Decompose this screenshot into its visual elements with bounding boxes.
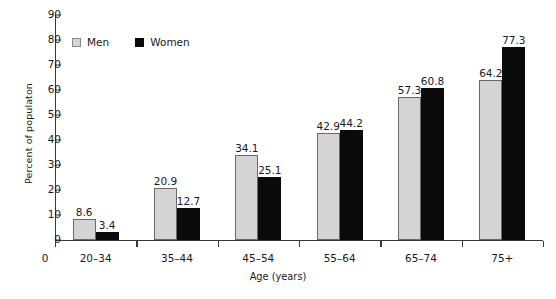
bar-women-3 (340, 130, 363, 241)
y-tick-label: 50 (37, 108, 61, 120)
x-tick-mark (462, 241, 463, 247)
bar-value-label-women-0: 3.4 (90, 219, 124, 231)
origin-label: 0 (35, 252, 55, 264)
bar-women-1 (177, 208, 200, 240)
x-tick-mark (218, 241, 219, 247)
bar-women-4 (421, 88, 444, 240)
x-tick-mark (299, 241, 300, 247)
bar-value-label-women-1: 12.7 (172, 195, 206, 207)
x-tick-label-2: 45–54 (218, 252, 298, 264)
bar-value-label-men-0: 8.6 (67, 206, 101, 218)
x-tick-label-5: 75+ (462, 252, 542, 264)
y-tick-label: 10 (37, 208, 61, 220)
bar-women-5 (502, 47, 525, 240)
y-tick-label: 80 (37, 33, 61, 45)
legend-item-men: Men (72, 36, 109, 48)
x-tick-mark (543, 241, 544, 247)
x-tick-mark (380, 241, 381, 247)
x-tick-label-3: 55–64 (300, 252, 380, 264)
x-tick-label-1: 35–44 (137, 252, 217, 264)
x-tick-mark (55, 241, 56, 247)
x-tick-mark (136, 241, 137, 247)
bar-men-5 (479, 80, 502, 241)
x-axis-title: Age (years) (0, 271, 556, 282)
legend-swatch-men-icon (72, 38, 81, 47)
chart-legend: Men Women (72, 36, 190, 48)
bar-value-label-men-1: 20.9 (149, 175, 183, 187)
y-tick-label: 30 (37, 158, 61, 170)
bar-chart-figure: Percent of populaton 0102030405060708090… (0, 0, 556, 299)
bar-women-0 (96, 232, 119, 241)
y-tick-label: 60 (37, 83, 61, 95)
legend-label-men: Men (87, 36, 109, 48)
y-tick-label: 40 (37, 133, 61, 145)
bar-men-4 (398, 97, 421, 240)
legend-swatch-women-icon (135, 38, 144, 47)
y-tick-label: 0 (37, 233, 61, 245)
x-tick-label-0: 20–34 (56, 252, 136, 264)
y-tick-label: 90 (37, 8, 61, 20)
y-tick-label: 70 (37, 58, 61, 70)
bar-value-label-women-5: 77.3 (497, 34, 531, 46)
bar-value-label-women-2: 25.1 (253, 164, 287, 176)
legend-item-women: Women (135, 36, 190, 48)
bar-value-label-women-3: 44.2 (334, 117, 368, 129)
bar-value-label-men-2: 34.1 (230, 142, 264, 154)
y-axis-title: Percent of populaton (23, 54, 34, 214)
bar-men-3 (317, 133, 340, 240)
y-tick-label: 20 (37, 183, 61, 195)
y-axis-line (55, 15, 56, 240)
bar-women-2 (258, 177, 281, 240)
bar-value-label-women-4: 60.8 (416, 75, 450, 87)
x-tick-label-4: 65–74 (381, 252, 461, 264)
legend-label-women: Women (150, 36, 190, 48)
